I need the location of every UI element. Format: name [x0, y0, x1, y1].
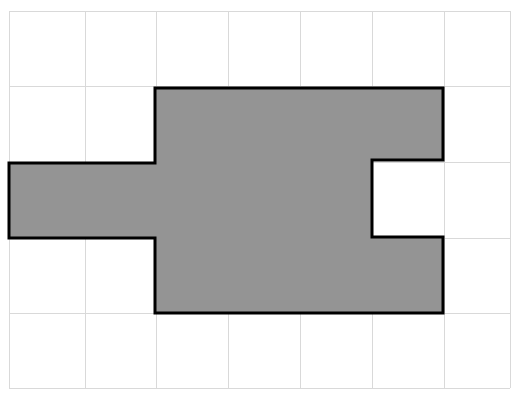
grid-polygon-figure: [0, 0, 518, 397]
figure-container: [0, 0, 518, 397]
